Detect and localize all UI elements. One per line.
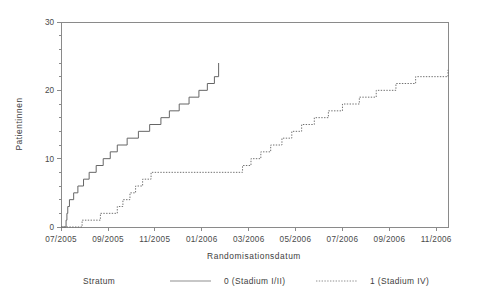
x-tick-label: 11/2006	[421, 235, 452, 244]
chart-legend: Stratum 0 (Stadium I/II) 1 (Stadium IV)	[83, 276, 429, 286]
x-tick-label: 03/2006	[233, 235, 265, 244]
x-axis-ticks	[61, 227, 436, 231]
y-axis-title: Patientinnen	[14, 97, 24, 150]
x-tick-label: 07/2005	[45, 235, 77, 244]
y-tick-label: 20	[45, 86, 55, 95]
chart-canvas: 0102030 07/200509/200511/200501/200603/2…	[0, 0, 487, 302]
x-axis-tick-labels: 07/200509/200511/200501/200603/200605/20…	[45, 235, 452, 244]
y-tick-label: 0	[49, 223, 54, 232]
series-line-1	[61, 70, 448, 227]
y-tick-label: 10	[45, 155, 55, 164]
legend-title: Stratum	[83, 276, 115, 286]
x-tick-label: 09/2005	[92, 235, 124, 244]
y-axis-ticks	[57, 22, 61, 227]
series-line-0	[61, 63, 219, 227]
y-axis-tick-labels: 0102030	[45, 18, 55, 232]
chart-figure: 0102030 07/200509/200511/200501/200603/2…	[0, 0, 487, 302]
y-tick-label: 30	[45, 18, 55, 27]
legend-label-stratum-0: 0 (Stadium I/II)	[224, 276, 285, 286]
x-tick-label: 01/2006	[186, 235, 218, 244]
x-tick-label: 11/2005	[139, 235, 170, 244]
x-tick-label: 05/2006	[280, 235, 312, 244]
x-tick-label: 07/2006	[327, 235, 359, 244]
data-series-group	[61, 63, 448, 227]
legend-label-stratum-1: 1 (Stadium IV)	[370, 276, 429, 286]
x-tick-label: 09/2006	[374, 235, 406, 244]
x-axis-title: Randomisationsdatum	[207, 251, 301, 261]
plot-frame	[61, 22, 448, 227]
